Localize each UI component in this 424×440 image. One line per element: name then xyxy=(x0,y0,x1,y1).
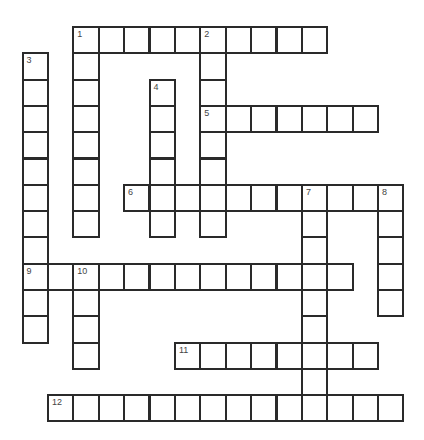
crossword-cell[interactable] xyxy=(326,342,353,370)
crossword-cell[interactable] xyxy=(72,79,99,107)
crossword-cell[interactable] xyxy=(225,342,252,370)
crossword-cell[interactable] xyxy=(47,263,74,291)
crossword-cell[interactable]: 6 xyxy=(123,184,150,212)
crossword-cell[interactable] xyxy=(72,289,99,317)
crossword-cell[interactable] xyxy=(301,210,328,238)
crossword-cell[interactable] xyxy=(199,342,226,370)
crossword-cell[interactable] xyxy=(72,315,99,343)
crossword-cell[interactable]: 12 xyxy=(47,394,74,422)
crossword-cell[interactable] xyxy=(301,26,328,54)
crossword-cell[interactable] xyxy=(174,394,201,422)
crossword-cell[interactable]: 8 xyxy=(377,184,404,212)
crossword-cell[interactable] xyxy=(352,184,379,212)
crossword-cell[interactable] xyxy=(276,105,303,133)
crossword-cell[interactable] xyxy=(149,263,176,291)
crossword-cell[interactable] xyxy=(72,184,99,212)
crossword-cell[interactable]: 3 xyxy=(22,52,49,80)
crossword-cell[interactable] xyxy=(199,263,226,291)
crossword-cell[interactable] xyxy=(352,342,379,370)
crossword-cell[interactable] xyxy=(72,394,99,422)
crossword-cell[interactable] xyxy=(301,263,328,291)
crossword-cell[interactable] xyxy=(250,394,277,422)
crossword-cell[interactable] xyxy=(72,131,99,159)
crossword-cell[interactable] xyxy=(199,210,226,238)
crossword-cell[interactable] xyxy=(72,105,99,133)
crossword-cell[interactable] xyxy=(199,394,226,422)
crossword-cell[interactable] xyxy=(276,184,303,212)
crossword-cell[interactable] xyxy=(225,105,252,133)
crossword-cell[interactable] xyxy=(377,394,404,422)
crossword-cell[interactable] xyxy=(98,26,125,54)
crossword-cell[interactable] xyxy=(149,131,176,159)
crossword-cell[interactable] xyxy=(22,184,49,212)
crossword-cell[interactable] xyxy=(225,394,252,422)
crossword-cell[interactable] xyxy=(250,184,277,212)
crossword-cell[interactable] xyxy=(72,342,99,370)
crossword-cell[interactable] xyxy=(22,315,49,343)
crossword-cell[interactable] xyxy=(22,79,49,107)
crossword-cell[interactable] xyxy=(301,394,328,422)
crossword-cell[interactable] xyxy=(301,289,328,317)
crossword-cell[interactable] xyxy=(123,394,150,422)
crossword-cell[interactable]: 2 xyxy=(199,26,226,54)
crossword-cell[interactable] xyxy=(377,236,404,264)
crossword-cell[interactable] xyxy=(276,26,303,54)
crossword-cell[interactable] xyxy=(149,158,176,186)
crossword-cell[interactable] xyxy=(199,131,226,159)
crossword-cell[interactable] xyxy=(301,342,328,370)
crossword-cell[interactable] xyxy=(225,263,252,291)
crossword-cell[interactable] xyxy=(301,368,328,396)
crossword-cell[interactable] xyxy=(149,26,176,54)
crossword-cell[interactable] xyxy=(250,105,277,133)
crossword-cell[interactable] xyxy=(72,52,99,80)
crossword-cell[interactable] xyxy=(301,105,328,133)
crossword-cell[interactable] xyxy=(123,26,150,54)
crossword-cell[interactable]: 9 xyxy=(22,263,49,291)
crossword-cell[interactable] xyxy=(22,105,49,133)
crossword-cell[interactable] xyxy=(123,263,150,291)
crossword-cell[interactable] xyxy=(199,52,226,80)
crossword-cell[interactable] xyxy=(174,263,201,291)
crossword-cell[interactable] xyxy=(276,394,303,422)
crossword-cell[interactable] xyxy=(174,184,201,212)
crossword-cell[interactable] xyxy=(301,236,328,264)
crossword-cell[interactable] xyxy=(199,184,226,212)
crossword-cell[interactable] xyxy=(276,342,303,370)
crossword-cell[interactable] xyxy=(250,342,277,370)
crossword-cell[interactable] xyxy=(72,158,99,186)
crossword-cell[interactable] xyxy=(326,184,353,212)
crossword-cell[interactable] xyxy=(98,394,125,422)
crossword-cell[interactable]: 11 xyxy=(174,342,201,370)
crossword-cell[interactable] xyxy=(149,210,176,238)
crossword-cell[interactable] xyxy=(326,263,353,291)
crossword-cell[interactable] xyxy=(225,184,252,212)
crossword-cell[interactable] xyxy=(174,26,201,54)
crossword-cell[interactable] xyxy=(22,158,49,186)
crossword-cell[interactable] xyxy=(352,105,379,133)
crossword-cell[interactable] xyxy=(250,26,277,54)
crossword-cell[interactable] xyxy=(98,263,125,291)
crossword-cell[interactable]: 5 xyxy=(199,105,226,133)
crossword-cell[interactable] xyxy=(225,26,252,54)
crossword-cell[interactable] xyxy=(301,315,328,343)
crossword-cell[interactable] xyxy=(377,289,404,317)
crossword-cell[interactable] xyxy=(377,210,404,238)
crossword-cell[interactable] xyxy=(72,210,99,238)
crossword-cell[interactable]: 1 xyxy=(72,26,99,54)
crossword-cell[interactable]: 4 xyxy=(149,79,176,107)
crossword-cell[interactable] xyxy=(22,210,49,238)
crossword-cell[interactable] xyxy=(149,105,176,133)
crossword-cell[interactable] xyxy=(326,394,353,422)
crossword-cell[interactable] xyxy=(352,394,379,422)
crossword-cell[interactable] xyxy=(22,289,49,317)
crossword-cell[interactable]: 10 xyxy=(72,263,99,291)
crossword-cell[interactable] xyxy=(22,131,49,159)
crossword-cell[interactable] xyxy=(149,394,176,422)
crossword-cell[interactable] xyxy=(326,105,353,133)
crossword-cell[interactable] xyxy=(250,263,277,291)
crossword-cell[interactable] xyxy=(199,79,226,107)
crossword-cell[interactable] xyxy=(22,236,49,264)
crossword-cell[interactable] xyxy=(149,184,176,212)
crossword-cell[interactable] xyxy=(199,158,226,186)
crossword-cell[interactable] xyxy=(377,263,404,291)
